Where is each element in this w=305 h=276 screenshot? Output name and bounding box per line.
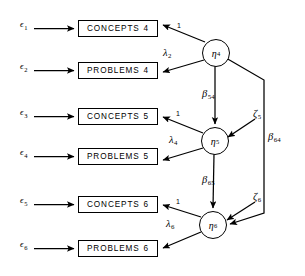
loading-subscript: 2 (168, 52, 172, 59)
latent-subscript: 5 (216, 138, 220, 145)
error-subscript: 5 (24, 200, 28, 207)
loading-subscript: 4 (174, 139, 178, 146)
observed-box-problems6[interactable]: PROBLEMS 6 (78, 240, 158, 257)
error-term-eps2: ϵ2 (20, 61, 27, 73)
beta-subscript: 54 (207, 93, 214, 100)
observed-label: CONCEPTS (87, 24, 140, 33)
loading-label-lambda6: λ6 (166, 218, 174, 230)
observed-box-problems4[interactable]: PROBLEMS 4 (78, 62, 158, 79)
error-subscript: 3 (24, 112, 28, 119)
loading-symbol: λ (163, 47, 168, 58)
loading-label-fixed-1-concepts4: 1 (177, 22, 181, 29)
path-diagram-canvas: CONCEPTS 4 PROBLEMS 4 CONCEPTS 5 PROBLEM… (0, 0, 305, 276)
edge-eta6-concepts6 (163, 205, 201, 217)
loading-symbol: λ (169, 134, 174, 145)
observed-wave: 6 (143, 200, 150, 209)
edge-eta4-concepts4 (163, 25, 205, 42)
error-term-eps1: ϵ1 (20, 19, 27, 31)
observed-wave: 4 (143, 24, 150, 33)
structural-label-beta65: β65 (202, 174, 215, 186)
error-term-eps5: ϵ5 (20, 195, 27, 207)
loading-label-lambda2: λ2 (163, 47, 171, 59)
observed-box-concepts6[interactable]: CONCEPTS 6 (78, 196, 158, 213)
error-term-eps3: ϵ3 (20, 107, 27, 119)
error-subscript: 1 (24, 24, 28, 31)
observed-box-concepts4[interactable]: CONCEPTS 4 (78, 20, 158, 37)
observed-box-concepts5[interactable]: CONCEPTS 5 (78, 108, 158, 125)
observed-wave: 6 (143, 244, 150, 253)
observed-label: CONCEPTS (87, 200, 140, 209)
structural-label-beta54: β54 (202, 88, 215, 100)
loading-symbol: λ (166, 218, 171, 229)
error-subscript: 6 (24, 244, 28, 251)
latent-circle-eta4[interactable]: η4 (202, 39, 230, 67)
edge-eta4-problems4 (163, 60, 204, 72)
error-subscript: 4 (24, 152, 28, 159)
error-term-eps6: ϵ6 (20, 239, 27, 251)
observed-label: CONCEPTS (87, 112, 140, 121)
error-term-eps4: ϵ4 (20, 147, 27, 159)
disturbance-term-zeta6: ζ6 (253, 191, 261, 203)
edge-eta6-problems6 (163, 232, 201, 248)
disturbance-subscript: 5 (257, 113, 261, 120)
loading-subscript: 6 (171, 223, 175, 230)
loading-label-fixed-1-concepts6: 1 (176, 198, 180, 205)
beta-subscript: 64 (273, 136, 280, 143)
latent-circle-eta5[interactable]: η5 (201, 127, 229, 155)
latent-subscript: 4 (217, 50, 221, 57)
observed-wave: 4 (143, 66, 150, 75)
disturbance-subscript: 6 (257, 196, 261, 203)
diagram-edges-layer (0, 0, 305, 276)
observed-label: PROBLEMS (87, 244, 140, 253)
edge-zeta5-eta5 (228, 119, 255, 137)
structural-label-beta64: β64 (268, 131, 281, 143)
observed-wave: 5 (143, 112, 150, 121)
loading-label-fixed-1-concepts5: 1 (176, 110, 180, 117)
observed-label: PROBLEMS (87, 152, 140, 161)
disturbance-term-zeta5: ζ5 (253, 108, 261, 120)
loading-label-lambda4: λ4 (169, 134, 177, 146)
latent-subscript: 6 (214, 222, 218, 229)
observed-wave: 5 (143, 152, 150, 161)
beta-subscript: 65 (207, 179, 214, 186)
edge-eta5-problems5 (163, 148, 203, 160)
observed-label: PROBLEMS (87, 66, 140, 75)
latent-circle-eta6[interactable]: η6 (199, 211, 227, 239)
edge-eta5-concepts5 (163, 117, 203, 133)
observed-box-problems5[interactable]: PROBLEMS 5 (78, 148, 158, 165)
error-subscript: 2 (24, 66, 28, 73)
